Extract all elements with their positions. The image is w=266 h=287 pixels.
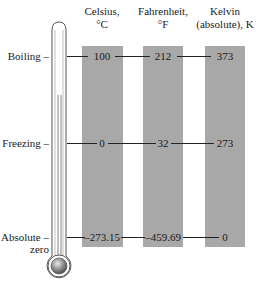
absolute-zero-label-line1: Absolute –	[0, 231, 49, 243]
boiling-kelvin-value: 373	[200, 50, 250, 62]
freezing-kelvin-value: 273	[200, 137, 250, 149]
freezing-label: Freezing –	[0, 137, 49, 149]
absolute-zero-celsius-value: –273.15	[77, 231, 127, 243]
kelvin-heading-line1: Kelvin	[185, 5, 265, 18]
absolute-zero-kelvin-value: 0	[200, 231, 250, 243]
boiling-fahrenheit-value: 212	[138, 50, 188, 62]
absolute-zero-label: Absolute – zero	[0, 231, 49, 255]
absolute-zero-fahrenheit-value: –459.69	[138, 231, 188, 243]
absolute-zero-label-line2: zero	[0, 243, 49, 255]
kelvin-heading: Kelvin (absolute), K	[185, 5, 265, 31]
freezing-celsius-value: 0	[77, 137, 127, 149]
boiling-celsius-value: 100	[77, 50, 127, 62]
kelvin-heading-line2: (absolute), K	[185, 18, 265, 31]
boiling-label: Boiling –	[0, 50, 49, 62]
freezing-fahrenheit-value: 32	[138, 137, 188, 149]
